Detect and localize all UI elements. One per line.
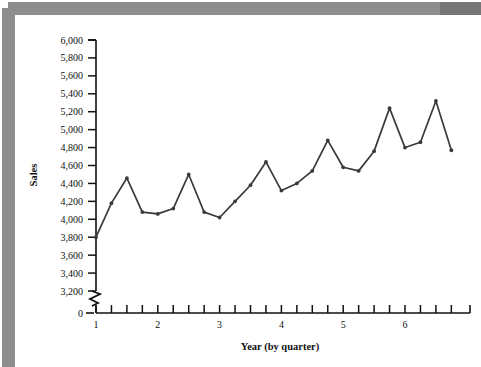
data-point xyxy=(326,139,330,143)
sales-data-markers xyxy=(94,99,453,239)
y-tick-label: 6,000 xyxy=(61,35,84,46)
x-tick-label: 6 xyxy=(403,319,408,330)
data-point xyxy=(202,210,206,214)
sales-line-chart: Sales Year (by quarter) 6,0005,8005,6005… xyxy=(0,0,481,367)
y-tick-label: 5,200 xyxy=(61,106,84,117)
x-tick-label: 3 xyxy=(217,319,222,330)
y-tick-label-group: 6,0005,8005,6005,4005,2005,0004,8004,600… xyxy=(61,35,84,320)
y-tick-label: 4,600 xyxy=(61,160,84,171)
data-point xyxy=(449,148,453,152)
y-tick-label: 3,800 xyxy=(61,232,84,243)
y-axis-title: Sales xyxy=(28,164,39,187)
x-tick-label: 4 xyxy=(279,319,284,330)
y-tick-label: 4,200 xyxy=(61,196,84,207)
x-tick-group xyxy=(96,305,451,313)
data-point xyxy=(264,160,268,164)
y-axis-break-icon xyxy=(90,291,100,306)
y-tick-label: 5,400 xyxy=(61,88,84,99)
data-point xyxy=(140,210,144,214)
data-point xyxy=(218,216,222,220)
x-axis-title: Year (by quarter) xyxy=(241,341,320,353)
y-tick-group xyxy=(88,40,96,291)
data-point xyxy=(187,173,191,177)
data-point xyxy=(94,235,98,239)
data-point xyxy=(110,201,114,205)
data-point xyxy=(249,183,253,187)
data-point xyxy=(357,169,361,173)
data-point xyxy=(280,189,284,193)
y-tick-label: 4,400 xyxy=(61,178,84,189)
data-point xyxy=(171,207,175,211)
data-point xyxy=(372,149,376,153)
data-point xyxy=(125,176,129,180)
sales-data-line xyxy=(96,101,451,237)
data-point xyxy=(341,165,345,169)
y-tick-label: 4,800 xyxy=(61,142,84,153)
chart-page: Sales Year (by quarter) 6,0005,8005,6005… xyxy=(0,0,481,367)
data-point xyxy=(295,182,299,186)
y-tick-label: 5,600 xyxy=(61,70,84,81)
data-point xyxy=(388,106,392,110)
x-tick-label-group: 123456 xyxy=(94,319,408,330)
x-tick-label: 1 xyxy=(94,319,99,330)
data-point xyxy=(419,140,423,144)
y-tick-label: 3,600 xyxy=(61,250,84,261)
y-tick-label: 4,000 xyxy=(61,214,84,225)
y-tick-label: 5,000 xyxy=(61,124,84,135)
y-tick-label: 3,200 xyxy=(61,286,84,297)
y-axis-zero-label: 0 xyxy=(78,308,83,319)
data-point xyxy=(156,212,160,216)
data-point xyxy=(403,146,407,150)
x-tick-label: 5 xyxy=(341,319,346,330)
data-point xyxy=(434,99,438,103)
data-point xyxy=(310,169,314,173)
data-point xyxy=(233,199,237,203)
y-tick-label: 5,800 xyxy=(61,52,84,63)
x-tick-label: 2 xyxy=(155,319,160,330)
y-tick-label: 3,400 xyxy=(61,268,84,279)
